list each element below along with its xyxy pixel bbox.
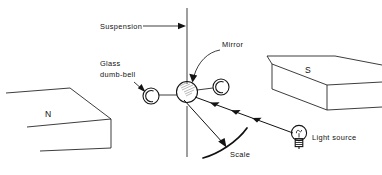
glass-dumbbell-label-line1: Glass [100,59,121,68]
glass-dumbbell-label-line2: dumb-bell [100,70,136,79]
suspension-leader [143,23,186,29]
reflected-light-beam [184,100,227,148]
south-pole-piece [267,56,382,110]
suspension-label: Suspension [100,22,142,31]
mirror-leader [189,50,220,83]
glass-dumbbell-leader [134,82,146,92]
south-pole-label: S [305,65,311,75]
diagram-canvas: N S Suspension [0,0,382,175]
glass-dumbbell-ball-right [213,79,229,95]
scale-label: Scale [230,150,250,159]
north-pole-piece [6,88,111,151]
mirror-label: Mirror [222,40,244,49]
light-source-label: Light source [312,133,356,142]
light-bulb [291,125,306,149]
glass-dumbbell-ball-left [143,88,159,104]
dumbbell-arms [159,88,213,95]
mirror-disc [177,82,198,103]
north-pole-label: N [45,109,51,119]
